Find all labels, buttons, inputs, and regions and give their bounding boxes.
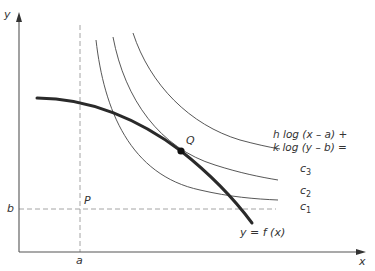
label-c3: c3 (300, 163, 311, 174)
c1-sub: 1 (306, 206, 311, 215)
equation-line-2: k log (y – b) = (273, 141, 347, 154)
level-curve-c1 (96, 40, 278, 200)
y-axis-arrow-icon (16, 12, 22, 22)
level-curve-c3 (133, 33, 280, 149)
level-curve-equation: h log (x – a) + k log (y – b) = (273, 128, 347, 154)
tick-label-a: a (76, 255, 83, 266)
level-curve-c2 (113, 37, 278, 180)
equation-line-1: h log (x – a) + (273, 128, 347, 141)
y-axis-label: y (4, 9, 11, 20)
tick-label-b: b (7, 203, 14, 214)
x-axis-label: x (359, 256, 366, 267)
point-q-marker (177, 147, 184, 154)
label-c2: c2 (300, 185, 311, 196)
point-p-label: P (84, 195, 91, 206)
label-c1: c1 (300, 201, 311, 212)
constraint-curve-label: y = f (x) (240, 227, 285, 238)
c3-sub: 3 (306, 168, 311, 177)
c2-sub: 2 (306, 190, 311, 199)
point-q-label: Q (186, 135, 195, 146)
